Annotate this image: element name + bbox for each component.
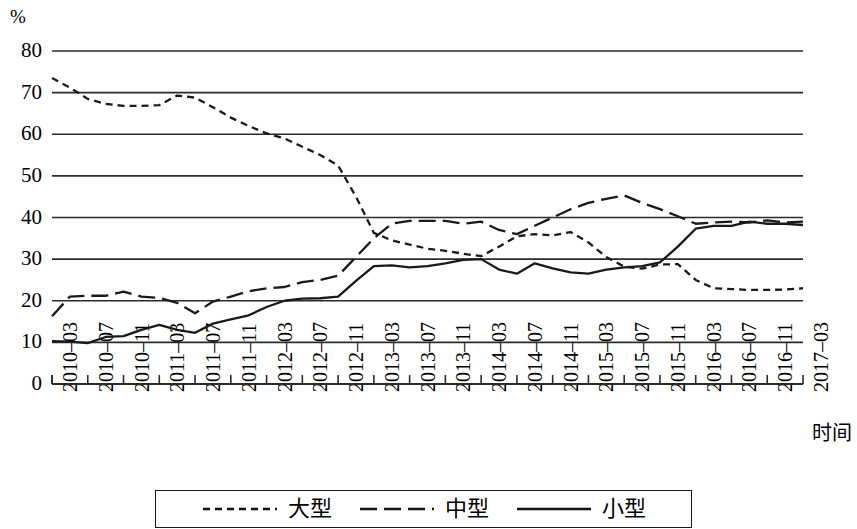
legend-item-大型[interactable]: 大型 [201, 498, 332, 520]
series-line-小型 [52, 222, 803, 344]
x-axis-title: 时间 [812, 417, 852, 446]
legend-swatch-solid [515, 502, 593, 516]
legend-swatch-dashed [358, 502, 436, 516]
legend-item-中型[interactable]: 中型 [358, 498, 489, 520]
data-series-layer [52, 78, 803, 343]
legend-swatch-dotted [201, 502, 279, 516]
legend-label: 大型 [288, 498, 332, 520]
legend-label: 小型 [602, 498, 646, 520]
legend-item-小型[interactable]: 小型 [515, 498, 646, 520]
legend: 大型中型小型 [155, 490, 692, 528]
legend-label: 中型 [445, 498, 489, 520]
series-line-大型 [52, 78, 803, 290]
series-line-中型 [52, 195, 803, 316]
x-axis-ticks [52, 375, 803, 384]
plot-area [0, 0, 857, 529]
line-chart: % 01020304050607080 2010–032010–072010–1… [0, 0, 857, 529]
